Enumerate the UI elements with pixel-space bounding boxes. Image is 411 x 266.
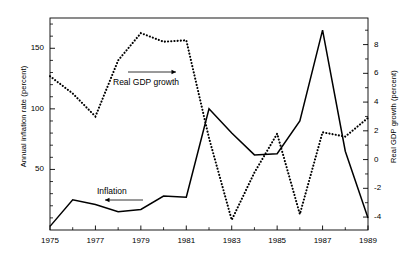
x-axis-tick-label: 1983 [212, 236, 252, 245]
x-axis-tick-label: 1987 [303, 236, 343, 245]
y-axis-right-tick-label: 8 [374, 40, 400, 49]
annotation-arrows [105, 70, 176, 202]
y-axis-right-tick-label: 2 [374, 126, 400, 135]
x-axis-tick-label: 1979 [121, 236, 161, 245]
annotation-real-gdp-growth: Real GDP growth [113, 77, 179, 87]
series-line-inflation [50, 30, 368, 226]
y-axis-right-tick-label: 0 [374, 155, 400, 164]
y-axis-left-ticks [50, 24, 55, 218]
x-axis-tick-label: 1981 [166, 236, 206, 245]
y-axis-left-tick-label: 50 [18, 164, 44, 173]
x-axis-tick-label: 1985 [257, 236, 297, 245]
axis-frame [50, 18, 368, 230]
y-axis-right-tick-label: 6 [374, 68, 400, 77]
chart-plot-svg [0, 0, 411, 266]
y-axis-right-tick-label: -2 [374, 183, 400, 192]
y-axis-right-ticks [363, 30, 368, 217]
y-axis-left-tick-label: 100 [18, 104, 44, 113]
annotation-inflation: Inflation [97, 186, 127, 196]
y-axis-right-tick-label: -4 [374, 212, 400, 221]
y-axis-right-tick-label: 4 [374, 97, 400, 106]
y-axis-right-title: Real GDP growth (percent) [389, 42, 398, 192]
x-axis-tick-label: 1975 [30, 236, 70, 245]
x-axis-tick-label: 1977 [75, 236, 115, 245]
x-axis-ticks [50, 226, 368, 231]
y-axis-left-tick-label: 150 [18, 43, 44, 52]
chart-container: Annual inflation rate (percent) Real GDP… [0, 0, 411, 266]
x-axis-tick-label: 1989 [348, 236, 388, 245]
